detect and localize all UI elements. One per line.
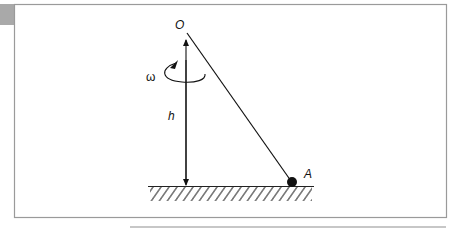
height-label: h	[168, 109, 175, 123]
mass-A	[287, 177, 297, 187]
pivot-label: O	[175, 18, 184, 32]
pendulum-diagram: O A ω h	[0, 0, 457, 229]
ground	[148, 187, 314, 202]
omega-label: ω	[146, 70, 155, 84]
pendulum-string	[187, 33, 291, 181]
figure-frame	[15, 5, 447, 218]
rotation-arrow	[165, 63, 205, 82]
mass-label: A	[303, 167, 312, 181]
